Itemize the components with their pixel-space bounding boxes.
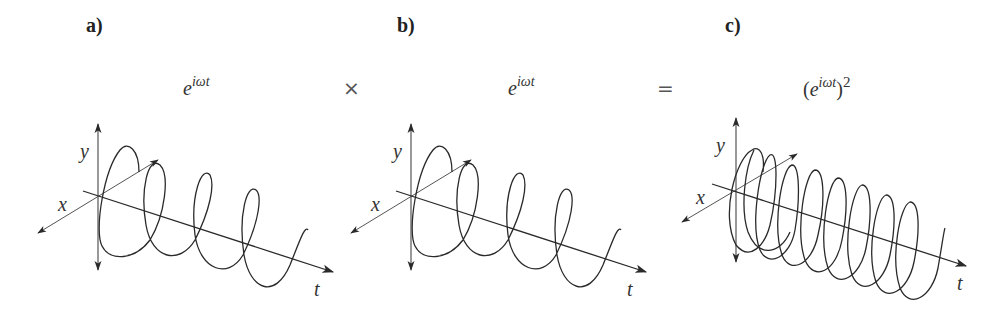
- x-axis-label: x: [695, 186, 705, 208]
- helix-diagrams: y x t y x t y x t: [0, 0, 997, 321]
- y-axis-label: y: [78, 140, 89, 163]
- panel-b-figure: y x t: [351, 124, 646, 300]
- panel-a-figure: y x t: [38, 124, 333, 300]
- y-axis-label: y: [391, 140, 402, 163]
- t-axis: [712, 184, 966, 266]
- t-axis: [83, 191, 333, 272]
- panel-c-figure: y x t: [682, 118, 966, 299]
- x-axis-label: x: [370, 193, 380, 215]
- helix-curve: [99, 146, 308, 287]
- helix-curve: [412, 146, 621, 287]
- t-axis: [396, 191, 646, 272]
- t-axis-label: t: [627, 278, 633, 300]
- t-axis-label: t: [314, 278, 320, 300]
- y-axis-label: y: [714, 134, 725, 157]
- x-axis-label: x: [57, 193, 67, 215]
- t-axis-label: t: [957, 272, 963, 294]
